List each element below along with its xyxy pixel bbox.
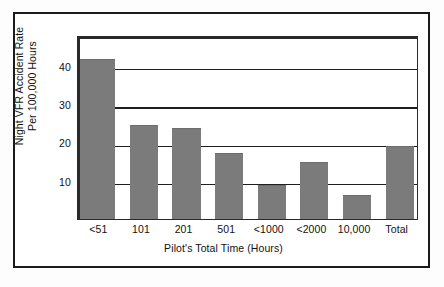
x-axis-tick-label: <51 — [89, 223, 107, 235]
y-axis-title-line-2: Per 100,000 Hours — [26, 41, 39, 131]
bar-series — [80, 39, 417, 219]
x-axis-tick-label: Total — [385, 223, 408, 235]
bar — [386, 146, 414, 219]
bar — [343, 195, 371, 219]
bar — [300, 162, 328, 219]
x-axis-tick-label: <2000 — [296, 223, 326, 235]
x-axis-title: Pilot's Total Time (Hours) — [15, 242, 432, 254]
x-axis-tick-label: 501 — [217, 223, 235, 235]
y-axis-title: Night VFR Accident Rate Per 100,000 Hour… — [9, 1, 43, 171]
bar — [215, 153, 243, 219]
bar — [130, 125, 158, 219]
y-axis-tick-label: 30 — [45, 99, 71, 111]
bar — [172, 128, 200, 219]
x-axis-tick-label: 10,000 — [338, 223, 371, 235]
x-axis-tick-labels: <51101201501<1000<200010,000Total — [77, 223, 418, 239]
y-axis-tick-label: 20 — [45, 137, 71, 149]
plot-area — [77, 36, 418, 220]
y-axis-title-line-1: Night VFR Accident Rate — [13, 27, 26, 145]
figure-root: Night VFR Accident Rate Per 100,000 Hour… — [0, 0, 444, 287]
y-axis-tick-labels: 10203040 — [45, 36, 71, 220]
bar — [258, 185, 286, 219]
y-axis-tick-label: 10 — [45, 176, 71, 188]
figure-border: Night VFR Accident Rate Per 100,000 Hour… — [13, 12, 430, 268]
x-axis-tick-label: 101 — [132, 223, 150, 235]
x-axis-tick-label: 201 — [175, 223, 193, 235]
y-axis-tick-label: 40 — [45, 61, 71, 73]
x-axis-tick-label: <1000 — [254, 223, 284, 235]
bar — [80, 59, 115, 219]
